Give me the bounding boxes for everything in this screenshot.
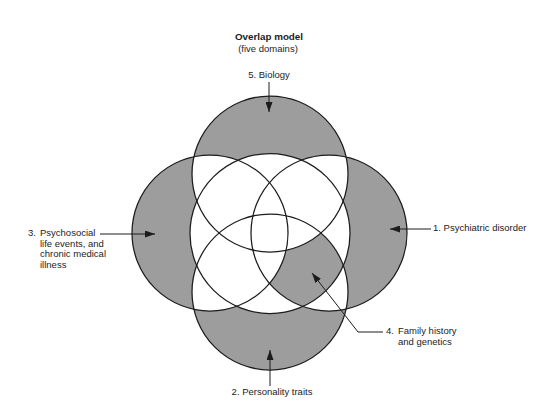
overlap-model-diagram: Overlap model (five domains) [0,0,544,413]
diagram-title: Overlap model [235,31,303,42]
label-personality-traits: 2. Personality traits [232,386,313,397]
label-psychosocial-line: life events, and [40,238,104,249]
label-psychosocial-line: illness [40,259,67,270]
label-psychosocial-line: chronic medical [40,248,106,259]
label-biology: 5. Biology [248,69,290,80]
label-psychosocial-number: 3. [28,227,36,238]
label-psychiatric-disorder: 1. Psychiatric disorder [433,222,526,233]
label-family-history-line: and genetics [398,336,452,347]
label-family-history-line: Family history [398,325,457,336]
label-psychosocial-line: Psychosocial [40,227,95,238]
label-family-history-number: 4. [386,325,394,336]
diagram-subtitle: (five domains) [238,43,298,54]
